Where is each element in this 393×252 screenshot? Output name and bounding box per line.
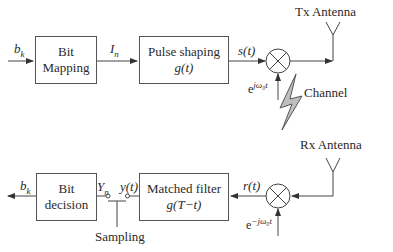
bit-decision-label-1: Bit: [59, 181, 75, 197]
s-t-label: s(t): [238, 44, 255, 58]
matched-filter-label-1: Matched filter: [147, 181, 221, 197]
output-label: bk: [20, 179, 31, 198]
bit-mapping-label-2: Mapping: [43, 60, 90, 76]
tx-antenna-label: Tx Antenna: [295, 5, 356, 19]
pulse-shaping-label-2: g(t): [175, 60, 194, 76]
rx-carrier-label: e−jω₀t: [246, 214, 272, 232]
bit-mapping-label-1: Bit: [58, 44, 74, 60]
r-t-label: r(t): [243, 179, 260, 193]
pulse-shaping-block: Pulse shaping g(t): [139, 36, 229, 84]
symbol-label: In: [110, 42, 119, 61]
bit-decision-label-2: decision: [45, 197, 88, 213]
bit-mapping-block: Bit Mapping: [35, 36, 97, 84]
bit-decision-block: Bit decision: [36, 173, 97, 221]
rx-antenna-icon: [326, 158, 340, 172]
matched-filter-label-2: g(T−t): [167, 197, 202, 213]
pulse-shaping-label-1: Pulse shaping: [148, 44, 220, 60]
channel-label: Channel: [304, 86, 347, 100]
rx-antenna-label: Rx Antenna: [300, 138, 362, 152]
y-t-label: y(t): [120, 180, 138, 194]
tx-antenna-icon: [326, 22, 340, 35]
sample-label: Yn: [97, 180, 109, 199]
sampling-label: Sampling: [95, 230, 145, 244]
tx-carrier-label: ejω₀t: [248, 78, 268, 96]
input-label: bk: [14, 42, 25, 61]
channel-lightning-icon: [280, 74, 302, 130]
matched-filter-block: Matched filter g(T−t): [139, 173, 229, 221]
